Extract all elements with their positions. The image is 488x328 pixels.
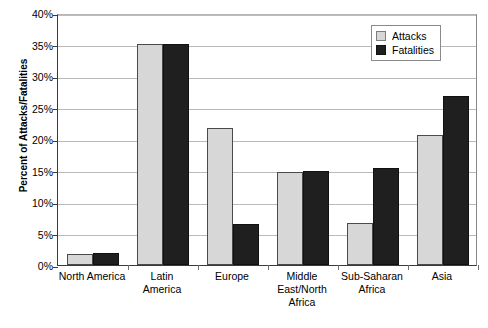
x-label-line: Middle xyxy=(267,270,337,283)
bar-fatalities xyxy=(373,168,399,265)
bar-attacks xyxy=(67,254,93,265)
y-tick-label: 35% xyxy=(7,40,53,52)
bar-fatalities xyxy=(93,253,119,265)
x-label-line: Africa xyxy=(337,283,407,296)
x-axis-category-label: Europe xyxy=(197,270,267,283)
bar-chart: Percent of Attacks/Fatalities 0%5%10%15%… xyxy=(0,0,488,328)
x-tick-mark xyxy=(478,265,479,270)
x-label-line: Asia xyxy=(407,270,477,283)
x-label-line: North America xyxy=(57,270,127,283)
x-axis-category-label: North America xyxy=(57,270,127,283)
bar-attacks xyxy=(347,223,373,265)
bar-fatalities xyxy=(443,96,469,265)
bar-group xyxy=(67,15,119,265)
y-tick-label: 25% xyxy=(7,103,53,115)
y-tick-label: 5% xyxy=(7,229,53,241)
legend-label: Fatalities xyxy=(392,44,434,56)
x-axis-category-label: Asia xyxy=(407,270,477,283)
y-tick-label: 10% xyxy=(7,197,53,209)
x-axis-labels: North AmericaLatinAmericaEuropeMiddleEas… xyxy=(57,270,477,326)
y-tick-label: 0% xyxy=(7,260,53,272)
bar-attacks xyxy=(137,44,163,265)
legend-swatch-attacks xyxy=(376,31,386,41)
x-label-line: East/North xyxy=(267,283,337,296)
legend-label: Attacks xyxy=(392,30,426,42)
bar-group xyxy=(137,15,189,265)
x-label-line: America xyxy=(127,283,197,296)
x-axis-category-label: Sub-SaharanAfrica xyxy=(337,270,407,296)
bar-group xyxy=(207,15,259,265)
bar-attacks xyxy=(277,172,303,265)
bar-fatalities xyxy=(303,171,329,266)
y-axis-title: Percent of Attacks/Fatalities xyxy=(18,41,29,211)
x-label-line: Latin xyxy=(127,270,197,283)
y-tick-label: 20% xyxy=(7,134,53,146)
bar-fatalities xyxy=(163,44,189,265)
chart-legend: AttacksFatalities xyxy=(371,25,441,61)
y-tick-label: 15% xyxy=(7,166,53,178)
x-axis-category-label: MiddleEast/NorthAfrica xyxy=(267,270,337,309)
legend-swatch-fatalities xyxy=(376,45,386,55)
legend-item: Fatalities xyxy=(376,43,434,57)
x-label-line: Sub-Saharan xyxy=(337,270,407,283)
bar-attacks xyxy=(207,128,233,265)
bar-group xyxy=(277,15,329,265)
y-tick-label: 40% xyxy=(7,8,53,20)
bar-fatalities xyxy=(233,224,259,265)
y-tick-label: 30% xyxy=(7,71,53,83)
x-label-line: Europe xyxy=(197,270,267,283)
bar-attacks xyxy=(417,135,443,265)
y-tick-mark xyxy=(53,267,58,268)
x-axis-category-label: LatinAmerica xyxy=(127,270,197,296)
x-label-line: Africa xyxy=(267,296,337,309)
legend-item: Attacks xyxy=(376,29,434,43)
